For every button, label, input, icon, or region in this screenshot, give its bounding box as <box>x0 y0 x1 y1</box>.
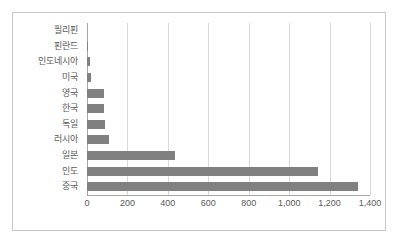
bar-row <box>87 179 370 195</box>
x-axis-tick-label: 1,400 <box>359 198 382 208</box>
bar <box>87 120 105 129</box>
bar <box>87 151 175 160</box>
bar-row <box>87 117 370 133</box>
y-axis-label: 러시아 <box>13 132 83 148</box>
x-axis-tick-label: 600 <box>201 198 216 208</box>
bar <box>87 135 109 144</box>
x-axis-tick-label: 200 <box>120 198 135 208</box>
x-axis-tick-label: 400 <box>160 198 175 208</box>
y-axis-label: 한국 <box>13 101 83 117</box>
bar <box>87 89 104 98</box>
bar-row <box>87 148 370 164</box>
y-axis-label: 인도네시아 <box>13 54 83 70</box>
bar <box>87 104 104 113</box>
bar-row <box>87 132 370 148</box>
y-axis-label: 필리핀 <box>13 23 83 39</box>
bar-row <box>87 86 370 102</box>
bar <box>87 167 318 176</box>
x-axis-tick-label: 1,200 <box>318 198 341 208</box>
y-axis-label: 독일 <box>13 117 83 133</box>
bar-row <box>87 39 370 55</box>
bar-row <box>87 23 370 39</box>
bar-row <box>87 70 370 86</box>
y-axis-label: 영국 <box>13 86 83 102</box>
bar <box>87 57 90 66</box>
y-axis-label: 중국 <box>13 179 83 195</box>
bar-row <box>87 54 370 70</box>
x-axis-line <box>87 195 370 196</box>
bar <box>87 42 88 51</box>
y-axis-label: 미국 <box>13 70 83 86</box>
y-axis-label: 핀란드 <box>13 39 83 55</box>
y-axis-label: 일본 <box>13 148 83 164</box>
x-axis-tick-label: 0 <box>84 198 89 208</box>
x-axis-tick-label: 1,000 <box>278 198 301 208</box>
x-axis-tick-labels: 02004006008001,0001,2001,400 <box>13 198 387 214</box>
bar-series <box>87 23 370 195</box>
plot-area <box>87 23 370 195</box>
gridline-1400 <box>370 23 371 195</box>
bar <box>87 182 358 191</box>
y-axis-category-labels: 필리핀핀란드인도네시아미국영국한국독일러시아일본인도중국 <box>13 23 83 195</box>
x-axis-tick-label: 800 <box>241 198 256 208</box>
bar-row <box>87 164 370 180</box>
chart-frame: 필리핀핀란드인도네시아미국영국한국독일러시아일본인도중국 02004006008… <box>12 12 386 231</box>
bar <box>87 73 91 82</box>
y-axis-label: 인도 <box>13 164 83 180</box>
bar-row <box>87 101 370 117</box>
